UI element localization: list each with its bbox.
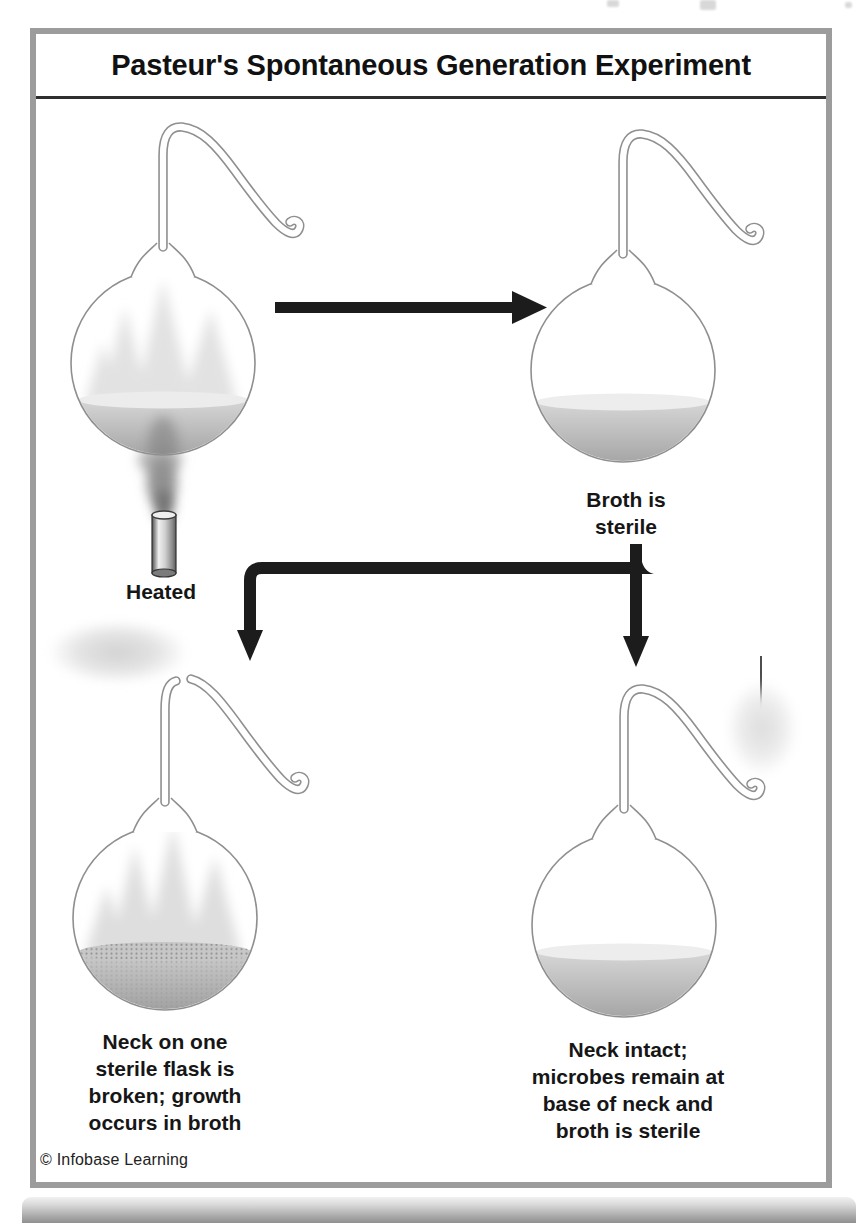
- flask-heated: [63, 111, 313, 461]
- scan-fragment: [607, 0, 619, 7]
- vapor-wisps: [85, 824, 241, 954]
- broken-flask-label: Neck on one sterile flask is broken; gro…: [55, 1028, 275, 1136]
- figure-title-bar: Pasteur's Spontaneous Generation Experim…: [36, 34, 826, 99]
- flask-intact-neck: [524, 673, 774, 1023]
- steam-wisps: [85, 279, 237, 403]
- swan-neck: [163, 127, 300, 247]
- scan-fragment: [845, 2, 852, 8]
- swan-neck: [624, 689, 761, 809]
- burner-cylinder: [152, 511, 176, 577]
- broken-swan-neck: [165, 679, 305, 802]
- figure-title: Pasteur's Spontaneous Generation Experim…: [111, 49, 751, 82]
- scan-fragment: [700, 0, 716, 10]
- next-figure-edge: [22, 1197, 856, 1223]
- arrow-heated-to-sterile: [275, 288, 550, 328]
- intact-flask-label: Neck intact; microbes remain at base of …: [508, 1036, 748, 1144]
- broth-sterile-label: Broth is sterile: [536, 486, 716, 540]
- arrow-branch: [236, 540, 666, 672]
- broth: [527, 402, 719, 467]
- heated-label: Heated: [101, 578, 221, 605]
- flask-sterile: [523, 118, 773, 468]
- copyright-credit: © Infobase Learning: [40, 1151, 188, 1169]
- swan-neck: [623, 134, 760, 254]
- burner: [112, 448, 212, 588]
- flask-broken-neck: [65, 666, 325, 1016]
